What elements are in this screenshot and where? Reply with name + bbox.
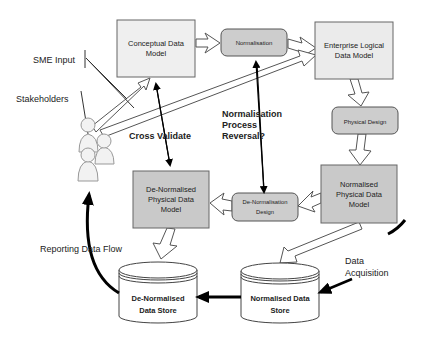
node-label: Data Model bbox=[335, 51, 374, 60]
arrow-conceptual-to-normalisation bbox=[196, 33, 220, 53]
normalisation-reversal-arrow bbox=[256, 62, 264, 192]
node-label: De-Normalised bbox=[146, 185, 196, 194]
arrow-physical-design-to-normalised-physical bbox=[349, 134, 371, 165]
node-label: Normalisation bbox=[236, 40, 273, 46]
arrow-denormalisation-design-to-denormalised-physical bbox=[210, 193, 232, 215]
node-physical-design[interactable]: Physical Design bbox=[332, 107, 398, 134]
data-acquisition-label: Data bbox=[345, 256, 364, 266]
node-label: Model bbox=[146, 49, 167, 58]
arrow-enterprise-to-physical-design bbox=[348, 79, 369, 106]
data-modelling-diagram: Conceptual Data Model Normalisation Ente… bbox=[0, 0, 429, 345]
node-conceptual-data-model[interactable]: Conceptual Data Model bbox=[117, 20, 195, 77]
node-denormalisation-design[interactable]: De-Normalisation Design bbox=[232, 193, 298, 221]
reporting-data-flow-label: Reporting Data Flow bbox=[40, 244, 123, 254]
node-label: Conceptual Data bbox=[128, 39, 185, 48]
normalisation-reversal-label: Reversal? bbox=[222, 131, 265, 141]
node-enterprise-logical-data-model[interactable]: Enterprise Logical Data Model bbox=[315, 22, 393, 79]
node-label: Model bbox=[161, 205, 182, 214]
node-denormalised-data-store[interactable]: De-Normalised Data Store bbox=[119, 262, 197, 323]
node-label: Design bbox=[256, 209, 274, 215]
node-label: Physical Data bbox=[148, 195, 195, 204]
node-label: Normalised Data bbox=[250, 294, 310, 303]
node-denormalised-physical-data-model[interactable]: De-Normalised Physical Data Model bbox=[133, 171, 209, 228]
node-normalisation[interactable]: Normalisation bbox=[221, 29, 287, 56]
stakeholders-label: Stakeholders bbox=[16, 94, 69, 104]
cross-validate-label: Cross Validate bbox=[129, 131, 191, 141]
normalisation-reversal-label: Normalisation bbox=[222, 109, 282, 119]
node-label: Model bbox=[349, 200, 370, 209]
arrow-normalised-physical-to-denormalisation-design bbox=[298, 191, 321, 212]
node-label: De-Normalised bbox=[132, 294, 185, 303]
node-label: Enterprise Logical bbox=[324, 41, 384, 50]
arrow-denormalised-physical-to-store bbox=[153, 228, 177, 259]
node-normalised-data-store[interactable]: Normalised Data Store bbox=[241, 263, 319, 323]
sme-input-label: SME Input bbox=[33, 55, 76, 65]
node-label: Physical Design bbox=[344, 119, 387, 125]
normalisation-reversal-label: Process bbox=[222, 120, 257, 130]
node-normalised-physical-data-model[interactable]: Normalised Physical Data Model bbox=[321, 165, 397, 223]
node-label: De-Normalisation bbox=[243, 199, 288, 205]
node-label: Normalised bbox=[340, 180, 378, 189]
node-label: Store bbox=[270, 306, 289, 315]
node-label: Physical Data bbox=[336, 190, 383, 199]
cross-validate-arrow bbox=[156, 84, 170, 165]
node-label: Data Store bbox=[139, 306, 177, 315]
data-acquisition-label: Acquisition bbox=[345, 268, 389, 278]
